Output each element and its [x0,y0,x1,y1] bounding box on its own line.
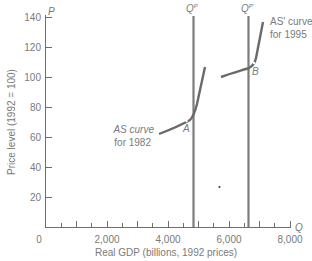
y-ticks [45,18,52,198]
point-a-marker [185,120,187,122]
x-tick-4000: 4,000 [155,234,180,245]
x-tick-8000: 8,000 [277,234,302,245]
qp-prime-label: QP' [241,3,255,14]
y-tick-140: 140 [24,12,41,23]
point-b-label: B [252,66,259,77]
y-axis-title: Price level (1992 = 100) [6,69,17,175]
x-axis-symbol: Q [295,222,303,233]
x-tick-labels: 0 2,000 4,000 6,000 8,000 [36,234,303,245]
qp-label: QP [186,3,198,14]
as-curve-1982 [159,67,205,134]
axes [45,15,291,228]
chart-canvas: 140 120 100 80 60 40 20 0 2,000 4,000 6,… [0,0,312,261]
as-1995-label-line1: AS' curve [270,16,312,27]
y-tick-80: 80 [30,102,42,113]
as-1982-label-line2: for 1982 [114,137,151,148]
y-tick-60: 60 [30,132,42,143]
y-tick-labels: 140 120 100 80 60 40 20 [24,12,41,203]
point-a-label: A [182,123,190,134]
as-1995-label-line2: for 1995 [270,29,307,40]
stray-dot [219,186,221,188]
y-tick-40: 40 [30,162,42,173]
point-b-marker [253,62,255,64]
y-tick-100: 100 [24,72,41,83]
x-tick-6000: 6,000 [216,234,241,245]
y-axis-symbol: P [48,6,55,17]
y-tick-20: 20 [30,192,42,203]
origin-label: 0 [36,234,42,245]
x-tick-2000: 2,000 [94,234,119,245]
y-tick-120: 120 [24,42,41,53]
as-1982-label-line1: AS curve [112,124,154,135]
x-ticks [62,221,291,227]
x-axis-title: Real GDP (billions, 1992 prices) [95,247,237,258]
